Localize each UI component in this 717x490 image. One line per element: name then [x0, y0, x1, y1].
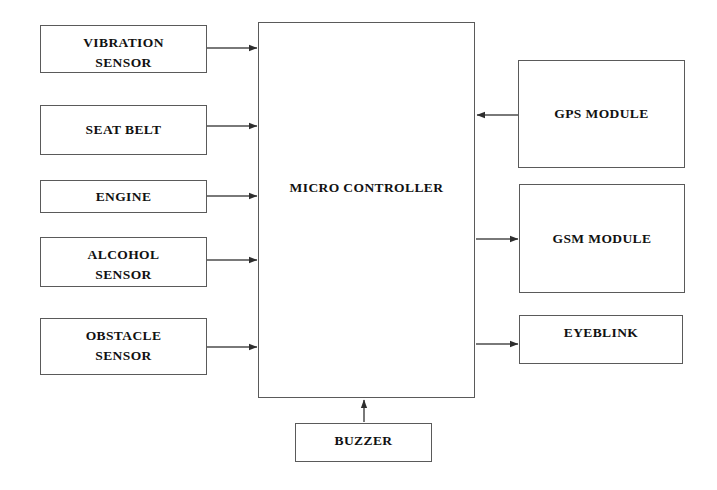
node-label-engine: ENGINE	[96, 187, 152, 207]
node-obstacle-sensor: OBSTACLE SENSOR	[40, 318, 207, 375]
node-label-seat-belt: SEAT BELT	[86, 120, 162, 140]
node-buzzer: BUZZER	[295, 423, 432, 462]
node-label-gps-module: GPS MODULE	[554, 104, 648, 124]
node-label-obstacle-sensor: OBSTACLE SENSOR	[86, 319, 162, 365]
node-engine: ENGINE	[40, 180, 207, 213]
node-label-eyeblink: EYEBLINK	[564, 316, 638, 343]
node-label-micro-controller: MICRO CONTROLLER	[290, 178, 444, 198]
node-micro-controller: MICRO CONTROLLER	[258, 22, 475, 398]
node-label-alcohol-sensor: ALCOHOL SENSOR	[88, 238, 160, 284]
node-gps-module: GPS MODULE	[518, 60, 685, 168]
node-vibration-sensor: VIBRATION SENSOR	[40, 25, 207, 73]
node-label-gsm-module: GSM MODULE	[553, 229, 652, 249]
node-gsm-module: GSM MODULE	[519, 184, 685, 293]
node-label-buzzer: BUZZER	[335, 424, 393, 451]
node-seat-belt: SEAT BELT	[40, 105, 207, 155]
node-alcohol-sensor: ALCOHOL SENSOR	[40, 237, 207, 287]
node-label-vibration-sensor: VIBRATION SENSOR	[83, 26, 164, 72]
block-diagram: VIBRATION SENSOR SEAT BELT ENGINE ALCOHO…	[0, 0, 717, 490]
node-eyeblink: EYEBLINK	[519, 315, 683, 364]
